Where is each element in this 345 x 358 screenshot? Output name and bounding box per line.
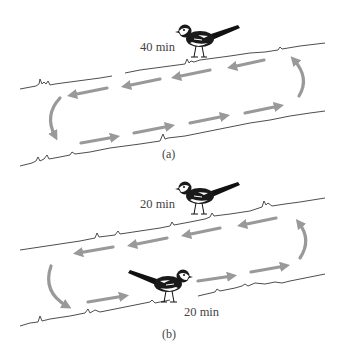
panel-a: 40 min (a) [20, 25, 325, 167]
figure: 40 min (a) 20 min 20 min [0, 0, 345, 358]
wagtail-bird-b-lower [128, 270, 193, 303]
time-label-b-upper: 20 min [140, 197, 176, 211]
right-turn-arrow-a [294, 60, 303, 96]
right-turn-arrow-b [299, 223, 306, 258]
panel-b: 20 min 20 min (b) [20, 182, 325, 342]
panel-label-a: (a) [162, 147, 175, 161]
wagtail-bird-a [175, 25, 240, 58]
left-turn-arrow-b [49, 266, 67, 306]
left-turn-arrow-a [51, 98, 60, 136]
lower-arrows-a [81, 106, 279, 143]
panel-label-b: (b) [162, 327, 176, 341]
wagtail-bird-b-upper [175, 182, 240, 215]
time-label-b-lower: 20 min [184, 305, 220, 319]
time-label-a: 40 min [140, 40, 176, 54]
